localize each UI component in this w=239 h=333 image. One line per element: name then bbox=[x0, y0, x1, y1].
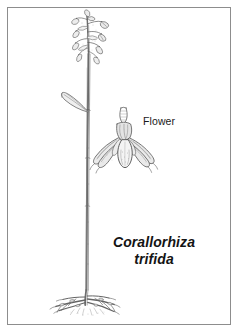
botanical-illustration bbox=[8, 8, 231, 325]
coralloid-rhizome bbox=[50, 290, 120, 315]
stem-bract bbox=[61, 92, 87, 112]
species-genus: Corallorhiza bbox=[96, 234, 212, 251]
species-name-caption: Corallorhiza trifida bbox=[96, 234, 212, 268]
whole-plant-drawing bbox=[50, 10, 120, 316]
figure-plate: Flower Corallorhiza trifida bbox=[0, 0, 239, 333]
stem bbox=[85, 54, 90, 290]
flower-callout-label: Flower bbox=[143, 116, 175, 128]
species-epithet: trifida bbox=[96, 251, 212, 268]
